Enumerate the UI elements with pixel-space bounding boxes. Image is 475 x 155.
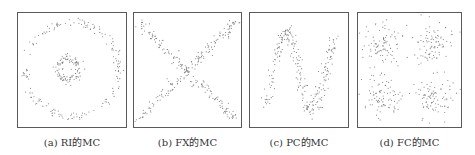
panel-fc	[357, 12, 462, 128]
scatter-sine-plot	[250, 13, 348, 127]
scatter-cross-plot	[134, 13, 241, 127]
caption-fx: (b) FX的MC	[133, 134, 242, 149]
caption-pc: (c) PC的MC	[249, 134, 349, 149]
scatter-clusters-plot	[358, 13, 461, 127]
panel-pc	[249, 12, 349, 128]
caption-ri: (a) RI的MC	[17, 134, 127, 149]
panel-ri	[17, 12, 127, 128]
scatter-ring-plot	[18, 13, 126, 127]
panel-fx	[133, 12, 242, 128]
caption-fc: (d) FC的MC	[357, 134, 462, 149]
